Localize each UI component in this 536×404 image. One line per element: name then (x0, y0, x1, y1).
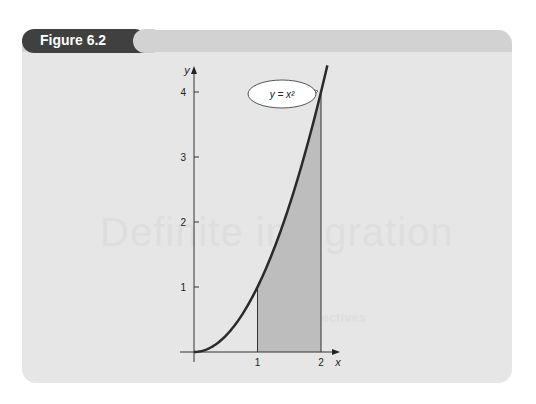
y-axis-arrow-icon (191, 66, 197, 74)
y-tick-label: 2 (180, 217, 186, 228)
y-tick-label: 1 (180, 282, 186, 293)
x-axis-arrow-icon (332, 349, 340, 355)
y-axis-label: y (183, 64, 191, 76)
x-tick-label: 1 (255, 357, 261, 368)
x-axis-label: x (334, 356, 341, 368)
x-tick-label: 2 (318, 357, 324, 368)
curve-label: y = x² (269, 89, 295, 100)
chart: 123412xyy = x² (0, 0, 536, 404)
y-tick-label: 3 (180, 152, 186, 163)
y-tick-label: 4 (180, 87, 186, 98)
